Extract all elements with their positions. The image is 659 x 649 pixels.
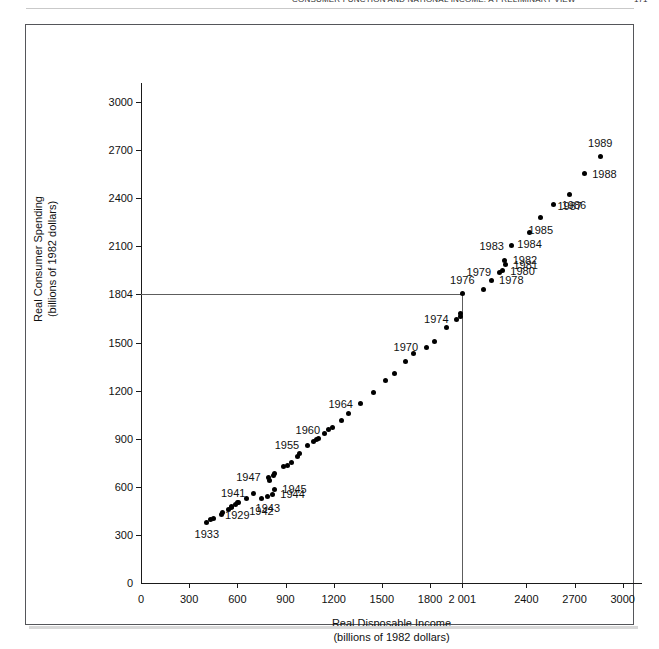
x-tick-mark xyxy=(462,583,463,588)
point-label-1982: 1982 xyxy=(513,254,537,266)
point-label-1929: 1929 xyxy=(225,509,249,521)
x-tick-mark xyxy=(286,583,287,588)
y-axis-title-main: Real Consumer Spending xyxy=(32,196,44,322)
data-point xyxy=(454,317,459,322)
header-rule xyxy=(26,8,634,9)
y-tick-label: 1500 xyxy=(109,337,133,349)
x-tick-mark xyxy=(430,583,431,588)
data-point xyxy=(236,500,241,505)
y-tick-label: 300 xyxy=(115,529,133,541)
x-axis-line xyxy=(141,583,642,584)
data-point xyxy=(270,492,275,497)
point-label-1974: 1974 xyxy=(424,313,448,325)
y-tick-mark xyxy=(136,439,141,440)
point-label-1964: 1964 xyxy=(329,398,353,410)
data-point xyxy=(538,215,543,220)
data-point xyxy=(403,359,408,364)
y-tick-label: 2400 xyxy=(109,192,133,204)
y-tick-mark xyxy=(136,246,141,247)
data-point xyxy=(229,504,234,509)
data-point xyxy=(204,520,209,525)
data-point xyxy=(392,371,397,376)
x-tick-mark xyxy=(334,583,335,588)
y-tick-label: 600 xyxy=(115,481,133,493)
data-point xyxy=(272,487,277,492)
page-running-head: CONSUMER FUNCTION AND NATIONAL INCOME: A… xyxy=(0,0,659,9)
y-tick-label: 900 xyxy=(115,433,133,445)
point-label-1945: 1945 xyxy=(282,483,306,495)
y-tick-mark xyxy=(136,343,141,344)
y-tick-label: 1804 xyxy=(109,288,133,300)
running-head-text: CONSUMER FUNCTION AND NATIONAL INCOME: A… xyxy=(292,0,576,4)
y-tick-label: 3000 xyxy=(109,96,133,108)
point-label-1979: 1979 xyxy=(467,266,491,278)
data-point xyxy=(289,460,294,465)
point-label-1985: 1985 xyxy=(529,224,553,236)
data-point xyxy=(551,202,556,207)
y-tick-mark xyxy=(136,198,141,199)
data-point xyxy=(316,436,321,441)
x-tick-label: 1800 xyxy=(418,593,442,605)
point-label-1989: 1989 xyxy=(588,137,612,149)
data-point xyxy=(444,325,449,330)
point-label-1933: 1933 xyxy=(195,528,219,540)
y-tick-label: 0 xyxy=(127,577,133,589)
x-tick-label: 3000 xyxy=(610,593,634,605)
data-point xyxy=(305,443,310,448)
x-tick-label: 2400 xyxy=(514,593,538,605)
x-tick-label: 900 xyxy=(276,593,294,605)
reference-line-vertical xyxy=(462,294,463,583)
data-point xyxy=(598,154,603,159)
y-tick-mark xyxy=(136,391,141,392)
x-tick-mark xyxy=(526,583,527,588)
data-point xyxy=(259,496,264,501)
point-label-1943: 1943 xyxy=(256,502,280,514)
point-label-1987: 1987 xyxy=(557,200,581,212)
x-tick-label: 300 xyxy=(180,593,198,605)
y-tick-mark xyxy=(136,102,141,103)
x-tick-mark xyxy=(237,583,238,588)
data-point xyxy=(502,258,507,263)
y-axis-title-sub: (billions of 1982 dollars) xyxy=(46,201,58,317)
point-label-1941: 1941 xyxy=(221,487,245,499)
x-axis-title-sub: (billions of 1982 dollars) xyxy=(333,631,449,643)
reference-line-horizontal xyxy=(141,294,462,295)
y-tick-mark xyxy=(136,487,141,488)
y-tick-label: 1200 xyxy=(109,385,133,397)
point-label-1955: 1955 xyxy=(275,439,299,451)
x-tick-mark xyxy=(575,583,576,588)
data-point xyxy=(481,287,486,292)
data-point xyxy=(460,291,465,296)
x-tick-label: 600 xyxy=(228,593,246,605)
point-label-1984: 1984 xyxy=(517,238,541,250)
x-axis-title: Real Disposable Income (billions of 1982… xyxy=(141,616,642,644)
data-point xyxy=(582,171,587,176)
point-label-1988: 1988 xyxy=(592,168,616,180)
data-point xyxy=(346,411,351,416)
y-tick-mark xyxy=(136,150,141,151)
data-point xyxy=(219,512,224,517)
data-point xyxy=(383,378,388,383)
point-label-1947: 1947 xyxy=(236,471,260,483)
data-point xyxy=(251,491,256,496)
x-tick-label: 2700 xyxy=(562,593,586,605)
data-point xyxy=(358,401,363,406)
point-label-1970: 1970 xyxy=(394,341,418,353)
data-point xyxy=(432,339,437,344)
data-point xyxy=(489,278,494,283)
y-tick-label: 2700 xyxy=(109,144,133,156)
x-tick-label: 1500 xyxy=(370,593,394,605)
data-point xyxy=(339,418,344,423)
y-axis-title: Real Consumer Spending (billions of 1982… xyxy=(31,196,59,322)
figure-frame: 03006009001200150018042100240027003000 0… xyxy=(25,24,634,625)
data-point xyxy=(330,425,335,430)
x-tick-label: 0 xyxy=(138,593,144,605)
data-point xyxy=(371,390,376,395)
point-label-1960: 1960 xyxy=(296,424,320,436)
data-point xyxy=(322,431,327,436)
x-tick-mark xyxy=(189,583,190,588)
y-tick-label: 2100 xyxy=(109,240,133,252)
data-point xyxy=(297,451,302,456)
data-point xyxy=(272,471,277,476)
x-tick-label: 1200 xyxy=(321,593,345,605)
